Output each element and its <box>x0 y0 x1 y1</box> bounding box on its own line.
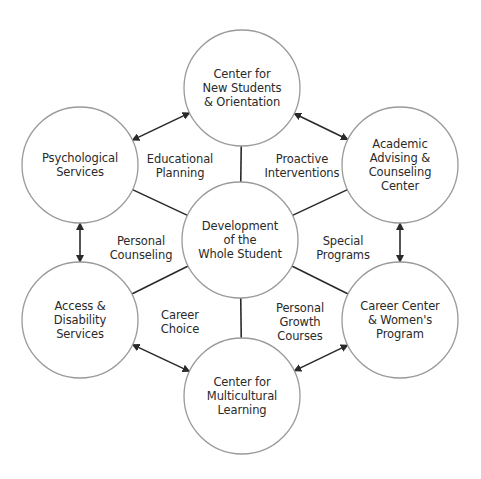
spoke-line-lower-right <box>292 266 348 294</box>
center-node-label: Development of the Whole Student <box>198 219 282 261</box>
node-label-academic-advising: Academic Advising & Counseling Center <box>369 137 432 193</box>
double-arrow-upper-left-top <box>132 113 189 140</box>
node-label-psychological: Psychological Services <box>42 151 118 179</box>
spoke-label-special-programs: Special Programs <box>316 234 370 262</box>
node-label-new-students: Center for New Students & Orientation <box>203 67 282 109</box>
double-arrow-bottom-lower-left <box>133 345 190 372</box>
spoke-label-proactive-interventions: Proactive Interventions <box>265 152 340 180</box>
double-arrow-lower-right-bottom <box>294 345 347 371</box>
node-label-access-disability: Access & Disability Services <box>54 299 106 341</box>
double-arrow-top-upper-right <box>294 113 348 139</box>
spoke-line-lower-left <box>132 266 188 294</box>
spoke-line-bottom <box>241 298 242 338</box>
spoke-label-career-choice: Career Choice <box>161 308 199 336</box>
spoke-line-upper-left <box>133 190 188 216</box>
node-label-career-center: Career Center & Women's Program <box>360 299 440 341</box>
spoke-label-educational-planning: Educational Planning <box>147 152 213 180</box>
node-label-multicultural: Center for Multicultural Learning <box>207 375 277 417</box>
spoke-label-personal-growth: Personal Growth Courses <box>276 301 324 343</box>
spoke-line-upper-right <box>293 190 348 216</box>
spoke-label-personal-counseling: Personal Counseling <box>110 234 173 262</box>
